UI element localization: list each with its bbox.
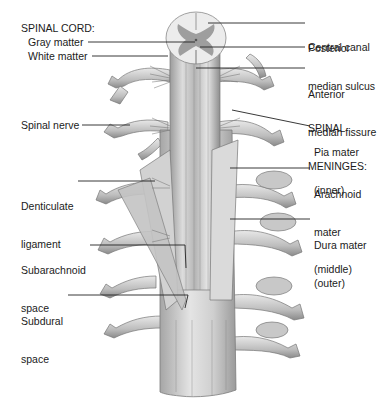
label-line: Arachnoid (314, 188, 361, 201)
label-line: Denticulate (21, 200, 74, 213)
label-line: Subarachnoid (21, 264, 86, 277)
label-spinal-nerve: Spinal nerve (21, 119, 79, 132)
label-line: Subdural (21, 315, 63, 328)
label-white-matter: White matter (28, 50, 88, 63)
label-gray-matter: Gray matter (28, 36, 83, 49)
label-subdural-space: Subdural space (21, 290, 63, 378)
label-spinal-cord-heading: SPINAL CORD: (21, 22, 95, 35)
label-line: space (21, 353, 63, 366)
cord-cross-section (166, 12, 226, 64)
label-central-canal: Central canal (308, 41, 370, 54)
label-dura-mater: Dura mater (outer) (314, 214, 367, 302)
label-line: (outer) (314, 277, 367, 290)
label-line: Dura mater (314, 239, 367, 252)
label-line: Pia mater (314, 146, 359, 159)
